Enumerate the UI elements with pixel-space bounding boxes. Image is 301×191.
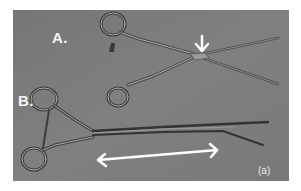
- instrument-a-label: A.: [52, 30, 68, 45]
- panel-label: (a): [258, 166, 270, 176]
- instrument-b-label: B.: [18, 93, 34, 108]
- figure: A. B. (a): [0, 0, 301, 191]
